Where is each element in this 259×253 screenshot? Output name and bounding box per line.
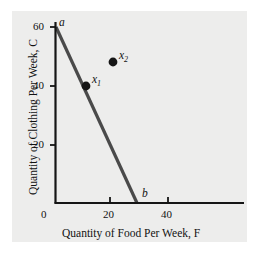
data-point-x2 — [109, 58, 118, 67]
y-tick-label-60: 60 — [33, 20, 44, 32]
x-tick-label-20: 20 — [103, 208, 114, 220]
y-axis-title: Quantity of Clothing Per Week, C — [27, 39, 39, 195]
data-point-label-x2: x2 — [119, 49, 128, 64]
line-endpoint-label-b: b — [142, 187, 148, 199]
x-tick-label-40: 40 — [161, 208, 172, 220]
y-axis-title-wrapper: Quantity of Clothing Per Week, C — [23, 37, 41, 197]
chart-screenshot: 60 40 20 0 20 40 a b x1 x2 Quantity of F… — [0, 0, 259, 253]
line-endpoint-label-a: a — [59, 16, 65, 28]
data-point-x1 — [82, 82, 91, 91]
x-tick-label-0: 0 — [41, 208, 47, 220]
data-point-label-x1: x1 — [92, 73, 101, 88]
data-point-label-x2-sub: 2 — [124, 55, 128, 64]
data-point-label-x1-sub: 1 — [97, 79, 101, 88]
x-axis-title: Quantity of Food Per Week, F — [62, 227, 200, 239]
